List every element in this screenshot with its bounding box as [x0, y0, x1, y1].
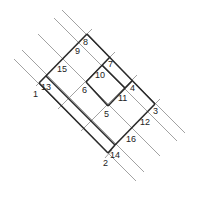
node-label-6: 6: [82, 85, 87, 95]
node-label-2: 2: [103, 158, 108, 168]
node-label-8: 8: [83, 37, 88, 47]
guide-line: [22, 50, 144, 172]
node-label-11: 11: [118, 93, 127, 103]
node-label-15: 15: [57, 64, 67, 74]
node-label-12: 12: [140, 117, 150, 127]
node-labels: 1 2 3 4 5 6 7 8 9 10 11 12 13 14 15 16: [33, 37, 158, 168]
node-label-13: 13: [41, 82, 51, 92]
node-label-14: 14: [110, 150, 120, 160]
node-label-3: 3: [153, 106, 158, 116]
node-label-1: 1: [33, 89, 38, 99]
node-label-4: 4: [130, 83, 135, 93]
node-label-10: 10: [95, 70, 105, 80]
node-label-9: 9: [75, 46, 80, 56]
edge: [86, 82, 108, 106]
node-label-16: 16: [126, 134, 136, 144]
grid-diagram: 1 2 3 4 5 6 7 8 9 10 11 12 13 14 15 16: [0, 0, 197, 200]
guide-lines: [14, 10, 185, 181]
node-label-5: 5: [104, 109, 109, 119]
node-label-7: 7: [108, 59, 113, 69]
